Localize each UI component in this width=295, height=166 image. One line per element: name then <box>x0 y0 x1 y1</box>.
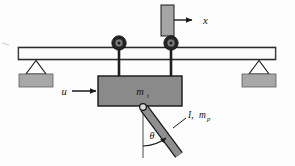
pendulum-label-leader-line <box>173 118 186 128</box>
label-pendulum-mass-base: m <box>199 110 206 120</box>
scan-artifact-mark <box>2 43 9 45</box>
wheel-left-axle <box>118 42 121 45</box>
right-support-base <box>242 74 276 87</box>
mechanics-diagram-figure: x <box>0 0 295 166</box>
right-support-triangle <box>249 61 269 75</box>
pendulum-property-label-group: I, m p <box>173 110 211 128</box>
label-theta-angle: θ <box>150 130 155 141</box>
cart-group: m t <box>98 76 182 106</box>
label-pendulum-inertia: I, <box>187 110 194 120</box>
beam-group <box>18 47 276 60</box>
input-force-group: u <box>61 86 96 97</box>
pendulum-group <box>140 104 179 155</box>
right-support-group <box>242 61 276 88</box>
rail-beam <box>18 47 276 60</box>
label-cart-mass-base: m <box>136 86 144 97</box>
left-support-triangle <box>26 61 46 75</box>
pendulum-pivot-joint <box>140 104 147 111</box>
label-x-displacement: x <box>202 14 208 26</box>
left-support-group <box>19 61 53 88</box>
reference-wall-block <box>161 5 174 36</box>
wheel-right-group <box>164 36 178 50</box>
wheel-right-axle <box>170 42 173 45</box>
label-u-input-force: u <box>61 86 66 97</box>
wheel-left-group <box>112 36 126 50</box>
label-pendulum-mass-subscript: p <box>206 115 211 122</box>
reference-wall-group: x <box>161 5 208 36</box>
diagram-canvas: x <box>0 0 295 166</box>
left-support-base <box>19 74 53 87</box>
